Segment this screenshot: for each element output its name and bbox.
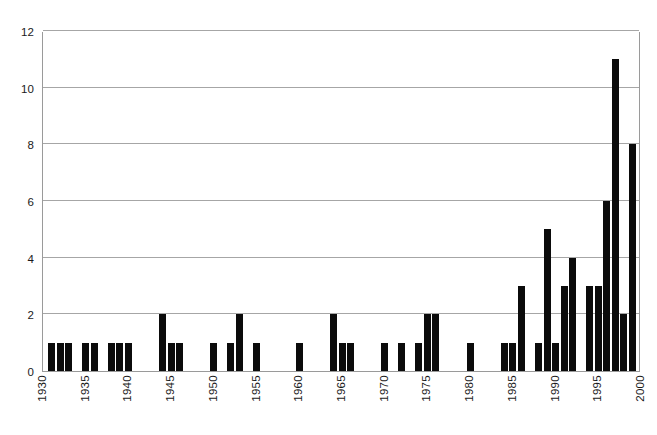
x-tick-label: 1955 <box>249 375 263 433</box>
y-tick-label: 12 <box>4 27 34 38</box>
bar <box>415 343 422 371</box>
x-tick-label: 1965 <box>334 375 348 433</box>
gridline-y-8 <box>43 143 639 144</box>
x-tick-label: 2000 <box>633 375 647 433</box>
y-tick-label: 8 <box>4 140 34 151</box>
gridline-y-6 <box>43 200 639 201</box>
x-tick-label: 1930 <box>35 375 49 433</box>
x-tick-label: 1960 <box>291 375 305 433</box>
x-tick-label: 1945 <box>163 375 177 433</box>
bar <box>569 258 576 371</box>
y-tick-label: 4 <box>4 254 34 265</box>
bar <box>544 229 551 371</box>
bar <box>57 343 64 371</box>
bar <box>236 314 243 371</box>
bar <box>48 343 55 371</box>
bar <box>125 343 132 371</box>
x-tick-label: 1975 <box>419 375 433 433</box>
x-tick-label: 1995 <box>590 375 604 433</box>
x-tick-label: 1990 <box>548 375 562 433</box>
y-tick-label: 0 <box>4 367 34 378</box>
bar <box>552 343 559 371</box>
x-tick-label: 1980 <box>462 375 476 433</box>
bar <box>159 314 166 371</box>
bar <box>432 314 439 371</box>
bar <box>65 343 72 371</box>
bar <box>296 343 303 371</box>
bar <box>509 343 516 371</box>
bar <box>381 343 388 371</box>
bar <box>629 144 636 371</box>
bar <box>227 343 234 371</box>
bar <box>424 314 431 371</box>
bar <box>535 343 542 371</box>
bar <box>398 343 405 371</box>
bar <box>603 201 610 371</box>
x-tick-label: 1935 <box>78 375 92 433</box>
bar <box>168 343 175 371</box>
x-axis: 1930193519401945195019551960196519701975… <box>42 375 640 433</box>
bar <box>620 314 627 371</box>
bar <box>467 343 474 371</box>
y-tick-label: 10 <box>4 84 34 95</box>
y-tick-label: 6 <box>4 197 34 208</box>
bar <box>108 343 115 371</box>
gridline-y-12 <box>43 30 639 31</box>
x-tick-label: 1985 <box>505 375 519 433</box>
bar <box>347 343 354 371</box>
bar <box>253 343 260 371</box>
bar <box>501 343 508 371</box>
x-tick-label: 1950 <box>206 375 220 433</box>
x-tick-label: 1970 <box>377 375 391 433</box>
bar <box>176 343 183 371</box>
plot-area <box>42 32 640 372</box>
x-tick-label: 1940 <box>120 375 134 433</box>
bar <box>595 286 602 371</box>
y-tick-label: 2 <box>4 310 34 321</box>
bar <box>82 343 89 371</box>
bar <box>91 343 98 371</box>
bar <box>116 343 123 371</box>
bar-chart: 121086420 193019351940194519501955196019… <box>0 0 657 435</box>
bar <box>330 314 337 371</box>
bar <box>518 286 525 371</box>
gridline-y-10 <box>43 87 639 88</box>
bar <box>586 286 593 371</box>
bar <box>210 343 217 371</box>
bar <box>561 286 568 371</box>
bar <box>612 59 619 371</box>
bar <box>339 343 346 371</box>
y-axis: 121086420 <box>0 32 34 372</box>
